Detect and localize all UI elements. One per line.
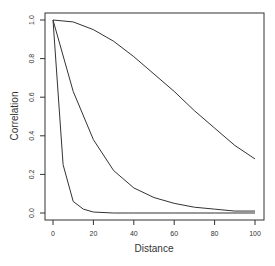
series-line-medium [53,20,255,211]
x-tick-label: 80 [211,230,219,237]
y-tick-label: 0.6 [28,92,35,102]
y-tick-label: 0.4 [28,131,35,141]
y-tick-label: 1.0 [28,15,35,25]
series-line-slow [53,20,255,159]
chart: 0204060801000.00.20.40.60.81.0DistanceCo… [0,0,275,266]
x-tick-label: 20 [90,230,98,237]
line-plot: 0204060801000.00.20.40.60.81.0DistanceCo… [0,0,275,266]
y-tick-label: 0.8 [28,54,35,64]
x-axis-label: Distance [135,243,174,254]
plot-frame [45,13,264,220]
x-tick-label: 60 [170,230,178,237]
x-tick-label: 100 [249,230,261,237]
y-tick-label: 0.2 [28,169,35,179]
y-tick-label: 0.0 [28,208,35,218]
x-tick-label: 40 [130,230,138,237]
y-axis-label: Correlation [9,92,20,141]
x-tick-label: 0 [51,230,55,237]
